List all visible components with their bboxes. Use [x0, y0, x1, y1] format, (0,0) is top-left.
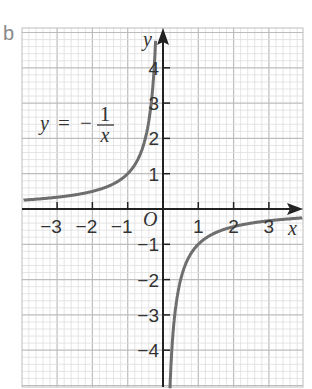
equation-sign: −: [80, 111, 92, 135]
equation-numerator: 1: [100, 102, 111, 126]
x-axis-label: x: [287, 217, 297, 239]
equation-lhs: y: [38, 112, 49, 135]
equation-denominator: x: [100, 124, 110, 146]
y-tick-label: −2: [137, 270, 159, 291]
x-tick-label: 2: [228, 216, 239, 237]
origin-label: O: [143, 208, 157, 230]
y-axis-label: y: [141, 28, 152, 51]
x-tick-label: −1: [111, 216, 133, 237]
curve-right-branch: [170, 218, 302, 388]
y-tick-label: 4: [148, 58, 159, 79]
x-tick-label: −3: [40, 216, 62, 237]
x-tick-label: −2: [76, 216, 98, 237]
x-tick-label: 1: [193, 216, 204, 237]
y-tick-label: 3: [148, 93, 159, 114]
y-tick-label: −4: [137, 340, 159, 361]
hyperbola-chart: −3−2−11234321−1−2−3−4Oxyy=−1x: [0, 0, 312, 389]
equation-equals: =: [58, 111, 70, 135]
x-tick-label: 3: [264, 216, 275, 237]
y-tick-label: 1: [148, 164, 159, 185]
y-tick-label: −3: [137, 305, 159, 326]
y-tick-label: 2: [148, 128, 159, 149]
y-tick-label: −1: [137, 234, 159, 255]
